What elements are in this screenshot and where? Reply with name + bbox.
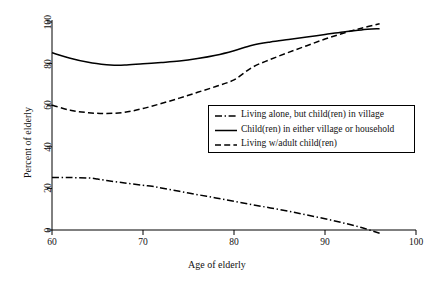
x-tick-label: 90 [305,237,345,247]
x-axis-title: Age of elderly [0,259,434,270]
y-tick-label: 0 [43,215,53,245]
series-line-1 [52,178,380,234]
x-tick-label: 100 [396,237,434,247]
legend-label-1[interactable]: Living alone, but child(ren) in village [241,109,384,119]
series-line-2 [52,29,380,66]
series-line-3 [52,24,380,114]
y-tick-label: 60 [43,90,53,120]
legend-label-3[interactable]: Living w/adult child(ren) [241,138,337,148]
y-tick-label: 20 [43,173,53,203]
y-tick-label: 80 [43,49,53,79]
y-axis-title: Percent of elderly [22,107,33,178]
x-tick-label: 70 [123,237,163,247]
y-tick-label: 40 [43,132,53,162]
y-tick-label: 100 [43,7,53,37]
legend-label-2[interactable]: Child(ren) in either village or househol… [241,124,394,134]
x-tick-label: 80 [214,237,254,247]
chart-figure: Age of elderly Percent of elderly 607080… [0,0,434,283]
